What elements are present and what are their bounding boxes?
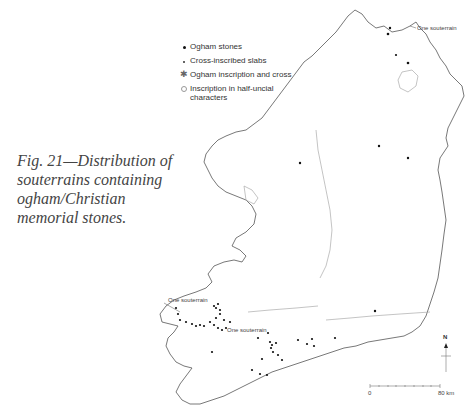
river-shannon bbox=[316, 130, 332, 278]
legend-label: Cross-inscribed slabs bbox=[190, 56, 266, 65]
open-circle-icon bbox=[178, 84, 190, 94]
legend-item-ogham-stones: Ogham stones bbox=[178, 42, 298, 51]
lough-corrib bbox=[244, 186, 258, 204]
legend-label: Ogham inscription and cross bbox=[190, 70, 291, 79]
annotation-southwest-upper: One souterrain bbox=[168, 297, 208, 303]
scale-start-label: 0 bbox=[368, 390, 371, 396]
annotation-northeast: One souterrain bbox=[417, 25, 457, 31]
filled-dot-icon bbox=[178, 42, 190, 51]
scale-bar bbox=[370, 384, 440, 388]
legend-label: Inscription in half-uncial characters bbox=[190, 84, 298, 102]
legend-item-cross-slabs: Cross-inscribed slabs bbox=[178, 56, 298, 65]
north-label: N bbox=[443, 334, 447, 340]
ne-leader bbox=[410, 26, 416, 28]
legend-label: Ogham stones bbox=[190, 42, 242, 51]
scale-end-label: 80 km bbox=[438, 390, 454, 396]
legend-item-half-uncial: Inscription in half-uncial characters bbox=[178, 84, 298, 102]
map-legend: Ogham stones Cross-inscribed slabs ✱ Ogh… bbox=[178, 42, 298, 107]
southeast-river bbox=[326, 312, 430, 320]
north-arrow-head bbox=[444, 343, 448, 348]
small-dot-icon bbox=[178, 56, 190, 65]
asterisk-icon: ✱ bbox=[178, 70, 190, 79]
southern-river bbox=[248, 306, 318, 312]
north-arrow bbox=[441, 348, 451, 372]
annotation-southwest-lower: One souterrain bbox=[227, 327, 267, 333]
lough-neagh bbox=[398, 70, 418, 92]
sw-upper-leader bbox=[164, 303, 180, 312]
legend-item-ogham-cross: ✱ Ogham inscription and cross bbox=[178, 70, 298, 79]
figure-caption: Fig. 21—Distribution of souterrains cont… bbox=[17, 151, 177, 227]
